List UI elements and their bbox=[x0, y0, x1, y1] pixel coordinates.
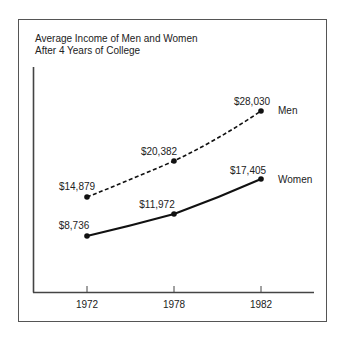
men-point-1972 bbox=[84, 194, 90, 200]
men-value-1982: $28,030 bbox=[234, 96, 271, 107]
women-point-1972 bbox=[84, 233, 90, 239]
men-value-1972: $14,879 bbox=[59, 181, 96, 192]
women-value-1978: $11,972 bbox=[139, 199, 175, 210]
line-chart: 1972 1978 1982 $14,879 $20,382 $28,030 M… bbox=[0, 0, 347, 341]
men-point-1978 bbox=[171, 158, 177, 164]
x-tick-label-1972: 1972 bbox=[76, 299, 99, 310]
legend-women: Women bbox=[278, 174, 312, 185]
women-point-1982 bbox=[258, 176, 264, 182]
legend-men: Men bbox=[278, 105, 297, 116]
women-value-1982: $17,405 bbox=[230, 165, 267, 176]
x-tick-label-1982: 1982 bbox=[250, 299, 273, 310]
men-value-1978: $20,382 bbox=[141, 146, 178, 157]
women-value-1972: $8,736 bbox=[59, 220, 90, 231]
x-tick-label-1978: 1978 bbox=[163, 299, 186, 310]
women-point-1978 bbox=[171, 211, 177, 217]
men-point-1982 bbox=[258, 108, 264, 114]
